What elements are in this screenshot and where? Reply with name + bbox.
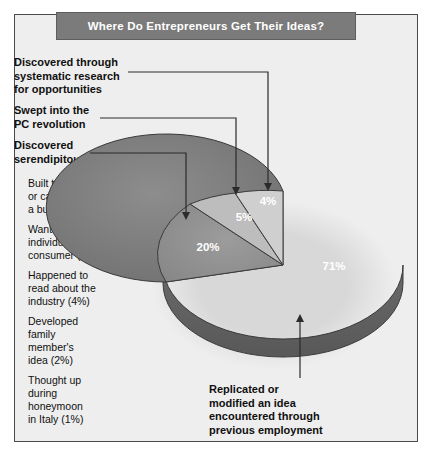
list-item: Wanted as an individual consumer (6%) [28, 223, 99, 262]
list-item: Built temporary or casual job into a bus… [28, 177, 107, 216]
list-item: Happened to read about the industry (4%) [28, 269, 96, 308]
callout-pc-revolution: Swept into the PC revolution [14, 104, 89, 131]
list-item: Thought up during honeymoon in Italy (1%… [28, 374, 83, 426]
callout-serendipity: Discovered serendipitously: [14, 139, 99, 166]
title-banner: Where Do Entrepreneurs Get Their Ideas? [56, 12, 356, 40]
list-item: Developed family member's idea (2%) [28, 315, 78, 367]
callout-replicated: Replicated or modified an idea encounter… [209, 383, 323, 437]
infographic-figure: Where Do Entrepreneurs Get Their Ideas? … [0, 0, 432, 456]
page-title: Where Do Entrepreneurs Get Their Ideas? [88, 20, 325, 32]
callout-research: Discovered through systematic research f… [14, 56, 120, 97]
